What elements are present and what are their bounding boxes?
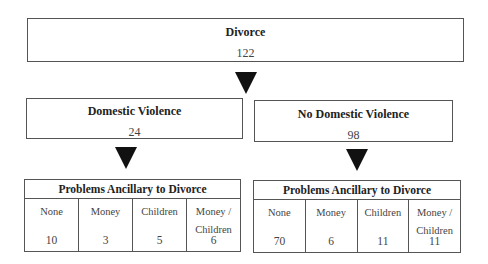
cell-value: 3 (79, 234, 132, 246)
column-label: Children (358, 200, 409, 222)
column-label: Money (306, 200, 357, 222)
root-value: 122 (28, 46, 463, 61)
down-arrow-icon (346, 149, 368, 171)
down-arrow-icon (235, 72, 257, 94)
column-label: Children (133, 199, 186, 221)
branch-value: 98 (255, 128, 452, 143)
root-title: Divorce (28, 25, 463, 40)
cell-value: 11 (358, 235, 409, 247)
cell-value: 6 (187, 234, 240, 246)
column-label: None (25, 199, 78, 221)
column-label: Money / Children (409, 200, 460, 240)
column-label: Money / Children (187, 199, 240, 239)
table-header: Problems Ancillary to Divorce (254, 181, 461, 200)
branch-title: No Domestic Violence (255, 107, 452, 122)
branch-value: 24 (27, 125, 242, 140)
cell-value: 70 (254, 235, 305, 247)
ancillary-problems-table-dv: Problems Ancillary to Divorce None10 Mon… (24, 179, 241, 252)
column-label: Money (79, 199, 132, 221)
ancillary-problems-table-no-dv: Problems Ancillary to Divorce None70 Mon… (253, 180, 461, 253)
root-node-divorce: Divorce 122 (27, 18, 464, 62)
cell-value: 5 (133, 234, 186, 246)
cell-value: 10 (25, 234, 78, 246)
table-row: None70 Money6 Children11 Money / Childre… (254, 200, 461, 253)
down-arrow-icon (115, 147, 137, 169)
branch-node-domestic-violence: Domestic Violence 24 (26, 98, 243, 139)
cell-value: 11 (409, 235, 460, 247)
table-header: Problems Ancillary to Divorce (25, 180, 241, 199)
cell-value: 6 (306, 235, 357, 247)
column-label: None (254, 200, 305, 222)
branch-node-no-domestic-violence: No Domestic Violence 98 (254, 100, 453, 142)
branch-title: Domestic Violence (27, 104, 242, 119)
table-row: None10 Money3 Children5 Money / Children… (25, 199, 241, 252)
